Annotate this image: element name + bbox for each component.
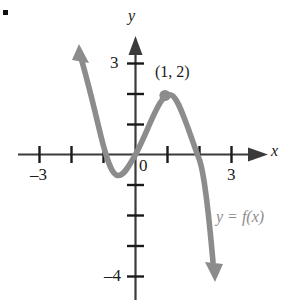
function-graph-figure: x y 0 –3 3 3 –4 (1, 2) y = f(x)	[0, 0, 298, 307]
origin-label: 0	[139, 157, 148, 174]
y-axis-arrowhead	[129, 36, 143, 55]
y-axis-label: y	[128, 8, 135, 24]
x-tick-label-3: 3	[227, 166, 236, 183]
curve-equation-label: y = f(x)	[216, 209, 264, 225]
point-annotation-label: (1, 2)	[155, 64, 190, 80]
point-marker-1-2	[159, 90, 170, 101]
graph-canvas	[0, 0, 298, 307]
x-tick-label--3: –3	[30, 166, 47, 183]
x-axis-label: x	[271, 143, 278, 159]
y-tick-label--4: –4	[104, 267, 121, 284]
curve-arrowhead-lower-right	[205, 262, 223, 282]
curve-arrowhead-upper-left	[72, 44, 89, 63]
y-tick-label-3: 3	[110, 54, 119, 71]
x-axis-arrowhead	[248, 148, 268, 162]
